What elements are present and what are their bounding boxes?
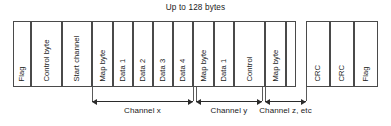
frame-cell-label: Flag xyxy=(18,67,26,82)
frame-cell-map-byte: Map byte xyxy=(193,21,214,87)
diagram-title: Up to 128 bytes xyxy=(0,3,391,12)
frame-cell-data-3: Data 3 xyxy=(153,21,173,87)
frame-cell-label: Data 1 xyxy=(119,59,127,82)
frame-cell-control: Control xyxy=(234,21,265,87)
frame-cell-data-2: Data 2 xyxy=(133,21,153,87)
dimension-arrow xyxy=(92,101,193,102)
frame-cell-flag: Flag xyxy=(13,21,31,87)
frame-cell-label: CRC xyxy=(338,65,346,82)
frame-cell-label: Map byte xyxy=(200,50,208,82)
boundary-tick xyxy=(306,87,307,101)
frame-cell-label: Start channel xyxy=(73,36,81,82)
frame-cell-map-byte: Map byte xyxy=(92,21,113,87)
dimension-arrow xyxy=(265,101,306,102)
frame-cell-map-byte: Map byte xyxy=(265,21,286,87)
frame-cell-label: CRC xyxy=(314,65,322,82)
frame-cell-data-1: Data 1 xyxy=(113,21,133,87)
boundary-tick xyxy=(262,87,263,101)
frame-cell-spacer xyxy=(286,21,296,87)
boundary-tick xyxy=(193,87,194,101)
dimension-arrow xyxy=(196,101,262,102)
dimension-label: Channel z, etc xyxy=(245,106,326,115)
frame-cell-label: Control xyxy=(246,57,254,82)
frame-cell-label: Map byte xyxy=(272,50,280,82)
frame-cell-label: Flag xyxy=(362,67,370,82)
frame-cell-crc: CRC xyxy=(306,21,330,87)
frame-format-diagram: Up to 128 bytes FlagControl byteStart ch… xyxy=(0,0,391,126)
frame-cell-flag: Flag xyxy=(354,21,378,87)
frame-cell-data-4: Data 4 xyxy=(173,21,193,87)
frame-cell-label: Data 4 xyxy=(179,59,187,82)
frame-cell-start-channel: Start channel xyxy=(62,21,92,87)
frame-cell-data-1: Data 1 xyxy=(214,21,234,87)
frame-cell-label: Data 2 xyxy=(139,59,147,82)
frame-cell-label: Map byte xyxy=(99,50,107,82)
frame-cell-label: Control byte xyxy=(43,40,51,82)
frame-cell-crc: CRC xyxy=(330,21,354,87)
frame-cell-label: Data 1 xyxy=(220,59,228,82)
frame-cell-control-byte: Control byte xyxy=(31,21,62,87)
frame-cell-label: Data 3 xyxy=(159,59,167,82)
